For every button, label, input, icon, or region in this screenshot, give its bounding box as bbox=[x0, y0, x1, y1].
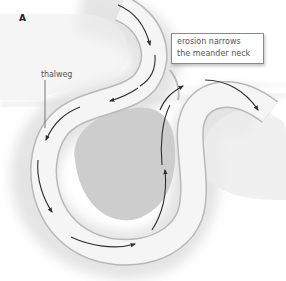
panel-label: A bbox=[19, 13, 26, 23]
callout-line-1: erosion narrows bbox=[177, 36, 259, 48]
thalweg-label: thalweg bbox=[41, 70, 72, 79]
callout-line-2: the meander neck bbox=[177, 48, 259, 60]
meander-diagram: A thalweg erosion narrows the meander ne… bbox=[0, 0, 286, 281]
erosion-callout-box: erosion narrows the meander neck bbox=[171, 33, 264, 64]
